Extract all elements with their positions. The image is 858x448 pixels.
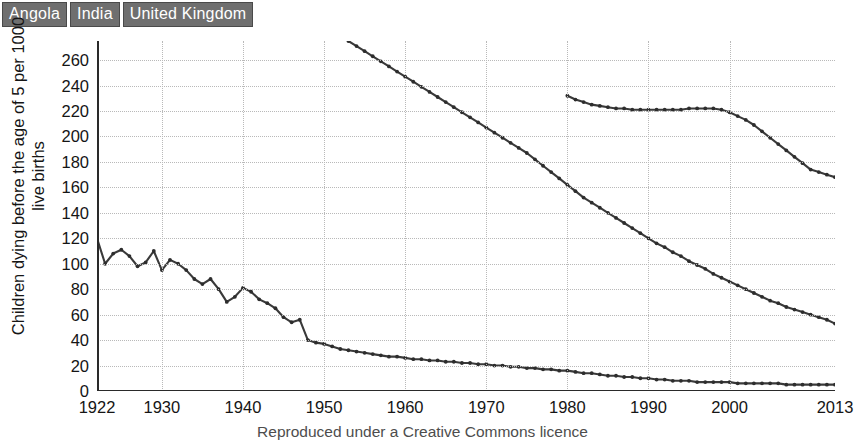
x-tick-label: 1950 <box>294 399 354 416</box>
legend-item-india[interactable]: India <box>70 2 120 27</box>
y-tick-label: 120 <box>45 230 89 247</box>
x-tick-label: 2000 <box>700 399 760 416</box>
x-tick-label: 1922 <box>67 399 127 416</box>
gridline-h <box>97 111 835 112</box>
gridline-h <box>97 315 835 316</box>
gridline-h <box>97 60 835 61</box>
gridline-v <box>486 41 487 391</box>
gridline-v <box>324 41 325 391</box>
legend: Angola India United Kingdom <box>2 2 253 27</box>
y-tick-label: 160 <box>45 179 89 196</box>
y-tick-label: 100 <box>45 256 89 273</box>
gridline-h <box>97 162 835 163</box>
gridline-h <box>97 238 835 239</box>
x-tick-label: 1940 <box>213 399 273 416</box>
gridline-h <box>97 187 835 188</box>
legend-item-angola[interactable]: Angola <box>2 2 67 27</box>
gridline-h <box>97 86 835 87</box>
x-tick-label: 1970 <box>456 399 516 416</box>
gridline-v <box>730 41 731 391</box>
series-canvas <box>97 41 835 391</box>
y-axis-line <box>97 41 99 391</box>
gridline-h <box>97 264 835 265</box>
gridline-v <box>162 41 163 391</box>
y-tick-label: 220 <box>45 103 89 120</box>
x-tick-label: 1930 <box>132 399 192 416</box>
gridline-h <box>97 136 835 137</box>
plot-area <box>97 41 835 391</box>
y-axis-title-line1: Children dying before the age of 5 per 1… <box>8 11 28 341</box>
y-tick-label: 260 <box>45 52 89 69</box>
gridline-h <box>97 366 835 367</box>
gridline-v <box>567 41 568 391</box>
x-axis-line <box>97 390 835 392</box>
y-tick-label: 140 <box>45 205 89 222</box>
series-india <box>347 41 835 325</box>
gridline-h <box>97 340 835 341</box>
gridline-v <box>648 41 649 391</box>
x-tick-label: 2013 <box>805 399 858 416</box>
legend-item-united-kingdom[interactable]: United Kingdom <box>123 2 254 27</box>
y-tick-label: 240 <box>45 78 89 95</box>
y-tick-label: 200 <box>45 128 89 145</box>
gridline-h <box>97 213 835 214</box>
x-tick-label: 1960 <box>375 399 435 416</box>
y-tick-label: 180 <box>45 154 89 171</box>
series-united-kingdom <box>97 236 835 386</box>
x-tick-label: 1990 <box>618 399 678 416</box>
x-tick-label: 1980 <box>537 399 597 416</box>
gridline-v <box>405 41 406 391</box>
gridline-h <box>97 289 835 290</box>
y-tick-label: 80 <box>45 281 89 298</box>
y-tick-label: 20 <box>45 358 89 375</box>
y-tick-label: 60 <box>45 307 89 324</box>
gridline-v <box>243 41 244 391</box>
caption: Reproduced under a Creative Commons lice… <box>0 423 845 441</box>
y-tick-label: 40 <box>45 332 89 349</box>
